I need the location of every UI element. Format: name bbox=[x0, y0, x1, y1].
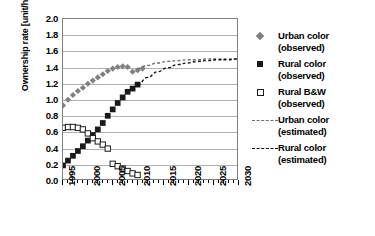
legend-label: Rural color(observed) bbox=[278, 58, 326, 81]
legend-label: Urban color(estimated) bbox=[278, 114, 329, 137]
x-tick-minor bbox=[158, 180, 159, 183]
data-point bbox=[120, 63, 126, 69]
x-tick-label: 2020 bbox=[192, 166, 203, 186]
legend-label: Rural color(estimated) bbox=[278, 142, 326, 165]
data-point bbox=[65, 97, 71, 103]
data-point bbox=[110, 107, 116, 113]
dashed-line-black-icon bbox=[252, 148, 278, 149]
legend-label-line2: (estimated) bbox=[278, 154, 326, 166]
data-point bbox=[70, 92, 76, 98]
data-point bbox=[75, 148, 81, 154]
data-point bbox=[130, 86, 136, 92]
legend-item: Rural color(observed) bbox=[252, 58, 372, 81]
y-tick-label: 1.2 bbox=[46, 77, 58, 88]
x-tick-minor bbox=[153, 180, 154, 183]
y-tick-label: 1.6 bbox=[46, 45, 58, 56]
legend-label-line1: Rural color bbox=[278, 142, 326, 153]
legend-item: Rural B&W(observed) bbox=[252, 86, 372, 109]
x-tick-major bbox=[213, 180, 214, 185]
y-tick-label: 2.0 bbox=[46, 13, 58, 24]
x-tick-label: 2025 bbox=[217, 166, 228, 186]
x-tick-minor bbox=[183, 180, 184, 183]
legend-label: Rural B&W(observed) bbox=[278, 86, 326, 109]
x-tick-major bbox=[163, 180, 164, 185]
x-tick-major bbox=[87, 180, 88, 185]
data-point bbox=[80, 85, 86, 91]
x-tick-minor bbox=[208, 180, 209, 183]
data-point bbox=[125, 89, 131, 95]
y-tick-label: 1.8 bbox=[46, 29, 58, 40]
x-tick-label: 1995 bbox=[66, 166, 77, 186]
x-tick-minor bbox=[132, 180, 133, 183]
x-tick-label: 2000 bbox=[91, 166, 102, 186]
data-point bbox=[120, 95, 126, 101]
legend-label-line1: Urban color bbox=[278, 114, 329, 125]
series-urban-color-estimated bbox=[138, 59, 237, 69]
legend-item: Urban color(observed) bbox=[252, 30, 372, 53]
data-point bbox=[130, 69, 136, 75]
x-tick-minor bbox=[127, 180, 128, 183]
x-tick-minor bbox=[228, 180, 229, 183]
y-tick-label: 1.0 bbox=[46, 94, 58, 105]
legend-label-line2: (observed) bbox=[278, 70, 326, 82]
estimated-line bbox=[138, 59, 237, 85]
dashed-line-gray-icon bbox=[252, 120, 278, 121]
legend-label: Urban color(observed) bbox=[278, 30, 329, 53]
legend-key-icon bbox=[252, 143, 278, 154]
x-tick-label: 2015 bbox=[167, 166, 178, 186]
y-axis-tick-labels: 2.01.81.61.41.21.00.80.60.40.20.0 bbox=[24, 18, 58, 180]
diamond-gray-icon bbox=[256, 32, 264, 40]
square-filled-black-icon bbox=[257, 61, 263, 67]
data-point bbox=[125, 64, 131, 70]
y-tick-label: 1.4 bbox=[46, 61, 58, 72]
data-point bbox=[85, 81, 91, 87]
x-tick-label: 2005 bbox=[116, 166, 127, 186]
legend-label-line2: (estimated) bbox=[278, 126, 329, 138]
data-point bbox=[105, 68, 111, 74]
legend-label-line1: Urban color bbox=[278, 30, 329, 41]
legend-label-line1: Rural color bbox=[278, 58, 326, 69]
data-series-layer bbox=[63, 19, 237, 179]
y-tick-label: 0.6 bbox=[46, 126, 58, 137]
x-tick-major bbox=[62, 180, 63, 185]
data-point bbox=[105, 113, 111, 119]
data-point bbox=[135, 172, 140, 177]
x-tick-major bbox=[112, 180, 113, 185]
data-point bbox=[80, 143, 86, 149]
chart-legend: Urban color(observed)Rural color(observe… bbox=[252, 30, 372, 170]
data-point bbox=[115, 64, 121, 70]
data-point bbox=[75, 88, 81, 94]
x-axis-tick-labels: 19952000200520102015202020252030 bbox=[62, 186, 238, 234]
data-point bbox=[90, 78, 96, 84]
data-point bbox=[105, 146, 110, 151]
data-point bbox=[65, 158, 71, 164]
data-point bbox=[110, 66, 116, 72]
estimated-line bbox=[138, 59, 237, 69]
y-tick-label: 0.8 bbox=[46, 110, 58, 121]
x-tick-major bbox=[238, 180, 239, 185]
legend-label-line2: (observed) bbox=[278, 98, 326, 110]
data-point bbox=[100, 71, 106, 77]
data-point bbox=[115, 100, 121, 106]
y-tick-label: 0.2 bbox=[46, 158, 58, 169]
legend-key-icon bbox=[252, 59, 278, 70]
legend-label-line1: Rural B&W bbox=[278, 86, 326, 97]
legend-label-line2: (observed) bbox=[278, 42, 329, 54]
legend-key-icon bbox=[252, 31, 278, 42]
x-tick-minor bbox=[77, 180, 78, 183]
legend-key-icon bbox=[252, 87, 278, 98]
series-rural-color-estimated bbox=[138, 59, 237, 85]
legend-key-icon bbox=[252, 115, 278, 126]
chart-figure: Ownership rate [unit/household] 2.01.81.… bbox=[0, 0, 375, 236]
data-point bbox=[100, 120, 106, 126]
x-tick-minor bbox=[233, 180, 234, 183]
data-point bbox=[70, 153, 76, 159]
data-point bbox=[63, 102, 66, 108]
y-tick-label: 0.4 bbox=[46, 142, 58, 153]
plot-area bbox=[62, 18, 238, 180]
legend-item: Rural color(estimated) bbox=[252, 142, 372, 165]
x-tick-minor bbox=[107, 180, 108, 183]
square-open-black-icon bbox=[257, 89, 264, 96]
x-tick-major bbox=[188, 180, 189, 185]
x-tick-label: 2010 bbox=[141, 166, 152, 186]
